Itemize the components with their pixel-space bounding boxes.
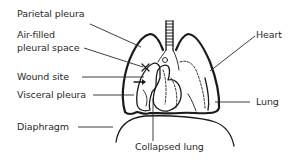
label-diaphragm: Diaphragm [17,121,69,132]
label-visceral-pleura: Visceral pleura [17,89,86,100]
label-air-filled-line2: pleural space [17,42,80,53]
label-parietal-pleura: Parietal pleura [17,8,84,19]
left-lung [180,61,209,111]
pneumothorax-diagram: Parietal pleura Air-filled pleural space… [0,0,296,160]
label-wound-site: Wound site [17,71,69,82]
label-collapsed-lung: Collapsed lung [135,141,204,152]
label-air-filled-line1: Air-filled [17,29,55,40]
label-heart: Heart [256,29,282,40]
heart [153,65,181,111]
label-lung: Lung [256,96,279,107]
